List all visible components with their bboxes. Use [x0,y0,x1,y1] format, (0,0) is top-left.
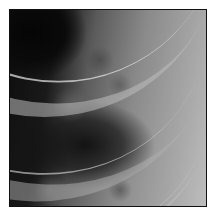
xray-image: Chest X-ray region with ribs [9,9,207,207]
rib-edge-3 [9,9,207,207]
